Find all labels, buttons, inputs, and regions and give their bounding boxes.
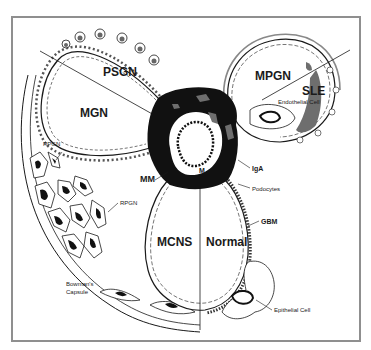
label-m: M (199, 167, 205, 174)
label-endothelial-cell: Endothelial Cell (278, 99, 320, 105)
label-mgn: MGN (80, 106, 108, 120)
label-iga: IgA (252, 165, 263, 173)
label-rpgn-top: RPGN (43, 141, 60, 147)
glomerulus-diagram: PSGN MGN MPGN SLE MCNS Normal Endothelia… (0, 0, 371, 350)
label-normal: Normal (206, 235, 247, 249)
label-mm: MM (140, 174, 155, 184)
mesangium (147, 87, 237, 189)
label-psgn: PSGN (103, 65, 137, 79)
label-rpgn-mid: RPGN (120, 200, 137, 206)
label-epithelial-cell: Epithelial Cell (274, 307, 310, 313)
rpgn-crescent (30, 152, 118, 258)
label-mpgn: MPGN (255, 69, 291, 83)
label-bowmans-line1: Bowman's (66, 281, 94, 287)
label-mcns: MCNS (157, 235, 192, 249)
label-gbm: GBM (261, 218, 278, 225)
label-bowmans-line2: Capsule (66, 289, 89, 295)
label-sle: SLE (302, 84, 325, 98)
label-podocytes: Podocytes (252, 186, 280, 192)
capillary-loop-mpgn-sle (224, 34, 350, 143)
